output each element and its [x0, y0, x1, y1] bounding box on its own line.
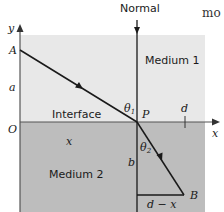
point-a-label: A — [8, 44, 17, 57]
length-b-label: b — [128, 156, 135, 169]
medium-2-region — [20, 122, 205, 212]
medium-1-region — [20, 35, 205, 122]
y-axis-arrow-icon — [17, 24, 24, 32]
cropped-text: mo — [202, 6, 221, 20]
interface-label: Interface — [52, 108, 101, 121]
normal-arrow-icon — [134, 27, 140, 34]
point-p-label: P — [141, 108, 150, 121]
point-b-label: B — [189, 189, 198, 202]
refraction-diagram: Normal mo Medium 1 Medium 2 Interface y … — [0, 0, 224, 212]
medium-1-label: Medium 1 — [145, 54, 199, 67]
y-axis-label: y — [7, 22, 15, 35]
length-d-label: d — [181, 102, 188, 115]
x-axis-arrow-icon — [212, 119, 220, 126]
length-d-minus-x-label: d − x — [147, 198, 177, 211]
normal-label: Normal — [120, 2, 160, 15]
length-x-label: x — [66, 135, 73, 148]
x-axis-label: x — [212, 127, 219, 140]
medium-2-label: Medium 2 — [49, 168, 103, 181]
length-a-label: a — [9, 81, 16, 94]
origin-label: O — [8, 123, 17, 136]
